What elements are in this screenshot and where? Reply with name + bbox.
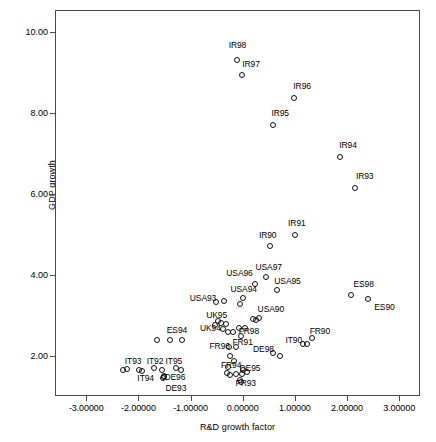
data-point [231,358,237,364]
data-point [337,154,343,160]
data-point [167,337,173,343]
data-point-label: FR90 [310,326,330,336]
data-point [274,287,280,293]
data-point-label: USA95 [274,276,300,286]
x-tick-mark [295,396,296,401]
data-point [256,315,262,321]
data-point [160,375,166,381]
data-point [304,341,310,347]
data-point-label: IR93 [356,171,374,181]
x-tick-label: 1.00000 [279,403,311,413]
x-tick-label: -2.00000 [121,403,156,413]
x-tick-label: 2.00000 [331,403,363,413]
data-point [136,367,142,373]
x-tick-label: -1.00000 [173,403,208,413]
data-point-label: UK95 [206,310,227,320]
data-point [348,292,354,298]
y-tick-label: 4.00 [0,270,48,280]
data-point-label: IT93 [125,356,142,366]
data-point [277,353,283,359]
x-tick-mark [86,396,87,401]
data-point [365,296,371,302]
x-tick-mark [243,396,244,401]
x-tick-mark [347,396,348,401]
data-point [120,367,126,373]
x-tick-label: -3.00000 [69,403,104,413]
data-point [227,372,233,378]
data-point [179,337,185,343]
x-tick-mark [399,396,400,401]
data-point [234,57,240,63]
data-point-label: FR91 [232,337,252,347]
y-tick-label: 2.00 [0,351,48,361]
data-point [213,299,219,305]
data-point-label: ES98 [353,279,373,289]
x-axis-title: R&D growth factor [55,422,420,432]
data-point-label: USA97 [256,262,282,272]
data-point-label: IR96 [293,81,311,91]
data-point [178,367,184,373]
data-point-label: IR90 [259,230,277,240]
data-point [239,72,245,78]
data-point-label: IT94 [137,373,154,383]
data-point-label: USA96 [226,268,252,278]
data-point-label: IT92 [147,356,164,366]
data-point [212,322,218,328]
data-point-label: IT90 [285,335,302,345]
data-point-label: DE93 [165,383,186,393]
data-point [267,243,273,249]
data-point-label: IR97 [242,59,260,69]
data-point [151,365,157,371]
data-point-label: ES94 [167,325,187,335]
data-point [292,232,298,238]
y-tick-label: 6.00 [0,189,48,199]
x-tick-label: 3.00000 [383,403,415,413]
data-point-label: IR91 [288,218,306,228]
data-point [250,316,256,322]
data-point-label: ES90 [374,302,394,312]
data-point [237,301,243,307]
y-tick-label: 8.00 [0,108,48,118]
data-point [242,325,248,331]
plot-area: IR98IR97IR96IR95IR94IR93IR91IR90USA97USA… [55,10,420,396]
data-point [159,367,165,373]
data-point [236,325,242,331]
x-tick-mark [191,396,192,401]
data-point-label: FR96 [210,341,230,351]
data-point-label: USA94 [230,284,256,294]
x-tick-mark [138,396,139,401]
data-point [154,337,160,343]
data-point [238,379,244,385]
data-point-label: DE96 [164,372,185,382]
data-point [240,295,246,301]
x-tick-label: 0.00000 [227,403,259,413]
data-point-label: USA90 [258,304,284,314]
data-point-label: IR95 [271,108,289,118]
scatter-chart-figure: GDP growth 2.004.006.008.0010.00 -3.0000… [0,0,436,442]
data-point [352,185,358,191]
data-point [244,369,250,375]
data-point-label: IR98 [229,40,247,50]
data-point [270,122,276,128]
data-point-label: DE98 [253,344,274,354]
data-point-label: IT95 [166,356,183,366]
data-point-label: IR94 [339,140,357,150]
data-point [309,335,315,341]
data-point [223,321,229,327]
y-tick-label: 10.00 [0,27,48,37]
data-point [263,274,269,280]
data-point [291,95,297,101]
data-point [221,298,227,304]
